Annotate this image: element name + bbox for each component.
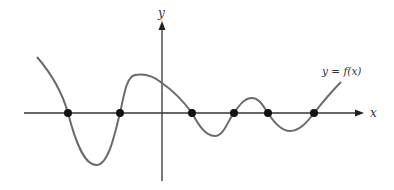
function-graph: y x y = f(x): [0, 0, 394, 190]
zero-point: [264, 109, 272, 117]
y-axis-arrow-icon: [159, 21, 166, 30]
zero-point: [64, 109, 72, 117]
x-axis-arrow-icon: [355, 110, 364, 117]
zero-point: [188, 109, 196, 117]
curve-label: y = f(x): [321, 65, 361, 77]
x-axis-label: x: [370, 106, 377, 120]
zero-point: [116, 109, 124, 117]
zero-point: [310, 109, 318, 117]
y-axis-label: y: [157, 6, 165, 20]
zero-point: [230, 109, 238, 117]
